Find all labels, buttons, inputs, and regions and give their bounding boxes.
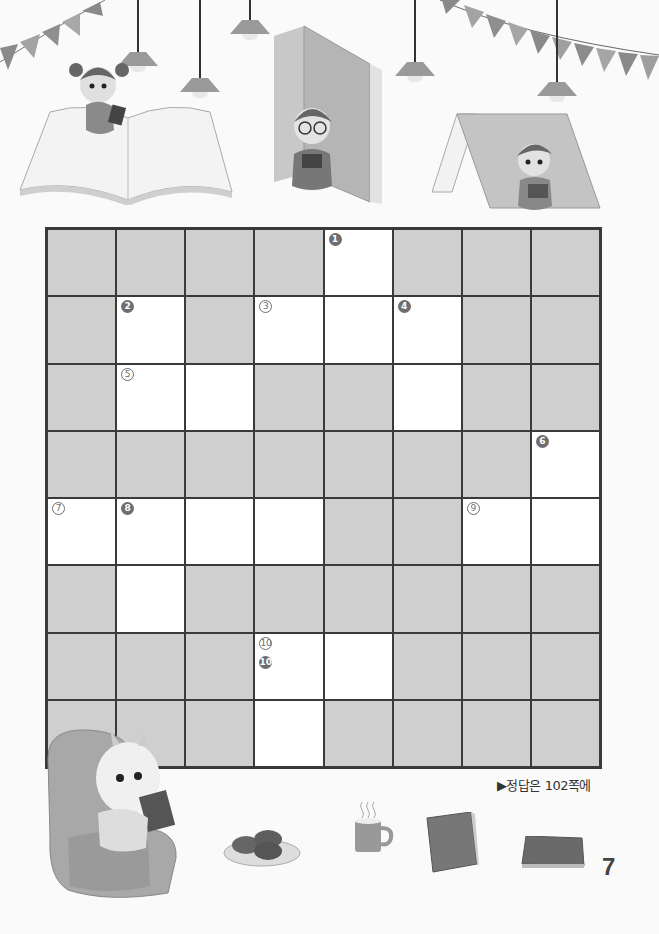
crossword-cell-blocked <box>394 230 461 295</box>
crossword-cell-open[interactable]: 9 <box>463 499 530 564</box>
across-clue-number-badge: 3 <box>259 300 272 313</box>
crossword-cell-open[interactable]: 6 <box>532 432 599 497</box>
across-clue-number-badge: 7 <box>52 502 65 515</box>
crossword-cell-blocked <box>48 634 115 699</box>
down-clue-number-badge: 8 <box>121 502 134 515</box>
crossword-cell-blocked <box>463 566 530 631</box>
crossword-cell-blocked <box>532 297 599 362</box>
crossword-cell-blocked <box>394 432 461 497</box>
girl-reading-on-open-book <box>10 50 235 209</box>
crossword-cell-open[interactable]: 2 <box>117 297 184 362</box>
crossword-cell-blocked <box>463 432 530 497</box>
crossword-cell-open[interactable]: 4 <box>394 297 461 362</box>
page-number: 7 <box>602 853 615 881</box>
crossword-cell-open[interactable] <box>186 365 253 430</box>
crossword-cell-blocked <box>463 230 530 295</box>
crossword-cell-open[interactable] <box>394 365 461 430</box>
crossword-cell-blocked <box>186 432 253 497</box>
standing-book <box>425 812 480 878</box>
crossword-cell-blocked <box>117 230 184 295</box>
down-clue-number-badge: 4 <box>398 300 411 313</box>
crossword-cell-open[interactable] <box>186 499 253 564</box>
crossword-cell-blocked <box>463 701 530 766</box>
across-clue-number-badge: 5 <box>121 368 134 381</box>
hot-mug <box>350 800 398 859</box>
across-clue-number-badge: 10 <box>259 637 272 650</box>
crossword-cell-open[interactable]: 1010 <box>255 634 322 699</box>
boy-with-glasses-reading-behind-standing-book <box>270 14 388 208</box>
down-clue-number-badge: 2 <box>121 300 134 313</box>
hanging-lamp <box>230 0 270 36</box>
crossword-cell-blocked <box>463 297 530 362</box>
boy-reading-under-book-tent <box>432 110 607 224</box>
hanging-lamp <box>395 0 435 80</box>
crossword-cell-blocked <box>532 566 599 631</box>
crossword-cell-blocked <box>532 230 599 295</box>
lying-book <box>520 836 588 876</box>
crossword-cell-open[interactable] <box>255 701 322 766</box>
crossword-cell-blocked <box>325 566 392 631</box>
crossword-cell-blocked <box>48 432 115 497</box>
crossword-cell-open[interactable] <box>117 566 184 631</box>
crossword-cell-blocked <box>186 297 253 362</box>
down-clue-number-badge: 10 <box>259 656 272 669</box>
crossword-cell-blocked <box>463 365 530 430</box>
crossword-cell-blocked <box>186 566 253 631</box>
plate-of-cookies <box>222 825 302 871</box>
crossword-cell-blocked <box>394 499 461 564</box>
crossword-cell-blocked <box>48 230 115 295</box>
hanging-lamp <box>537 0 577 102</box>
answer-reference-note: ▶정답은 102쪽에 <box>497 775 591 794</box>
crossword-cell-open[interactable]: 1 <box>325 230 392 295</box>
crossword-cell-blocked <box>117 634 184 699</box>
crossword-cell-open[interactable]: 3 <box>255 297 322 362</box>
crossword-cell-open[interactable] <box>532 499 599 564</box>
crossword-cell-blocked <box>532 365 599 430</box>
crossword-cell-blocked <box>532 634 599 699</box>
crossword-cell-blocked <box>255 365 322 430</box>
crossword-cell-blocked <box>325 365 392 430</box>
crossword-cell-open[interactable] <box>325 297 392 362</box>
crossword-cell-open[interactable]: 5 <box>117 365 184 430</box>
crossword-cell-blocked <box>325 499 392 564</box>
crossword-cell-blocked <box>325 701 392 766</box>
down-clue-number-badge: 6 <box>536 435 549 448</box>
crossword-cell-blocked <box>186 230 253 295</box>
crossword-cell-blocked <box>255 566 322 631</box>
crossword-cell-blocked <box>532 701 599 766</box>
down-clue-number-badge: 1 <box>329 233 342 246</box>
crossword-cell-blocked <box>255 432 322 497</box>
crossword-cell-blocked <box>463 634 530 699</box>
crossword-cell-blocked <box>255 230 322 295</box>
crossword-cell-blocked <box>48 365 115 430</box>
crossword-cell-blocked <box>117 432 184 497</box>
crossword-cell-blocked <box>186 634 253 699</box>
crossword-cell-blocked <box>48 297 115 362</box>
crossword-cell-blocked <box>394 566 461 631</box>
across-clue-number-badge: 9 <box>467 502 480 515</box>
crossword-cell-blocked <box>48 566 115 631</box>
crossword-cell-open[interactable] <box>325 634 392 699</box>
crossword-cell-blocked <box>394 634 461 699</box>
crossword-cell-open[interactable]: 8 <box>117 499 184 564</box>
crossword-cell-blocked <box>394 701 461 766</box>
crossword-cell-open[interactable]: 7 <box>48 499 115 564</box>
goat-reading-in-armchair <box>38 718 198 907</box>
crossword-grid: 1234567891010 <box>45 227 602 769</box>
crossword-cell-blocked <box>325 432 392 497</box>
crossword-cell-open[interactable] <box>255 499 322 564</box>
